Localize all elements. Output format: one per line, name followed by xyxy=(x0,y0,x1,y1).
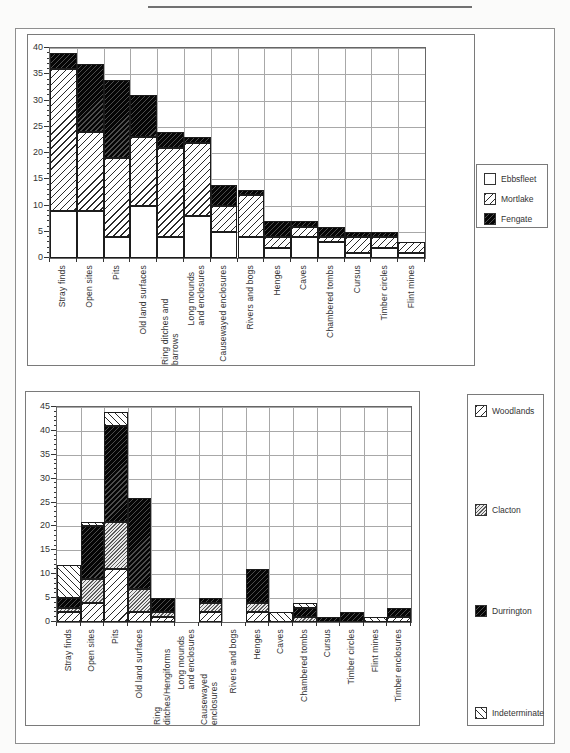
bar-segment-ebbsfleet xyxy=(211,232,238,258)
v-gridline xyxy=(199,407,200,622)
x-tick xyxy=(56,622,57,626)
legend-item-fengate: Fengate xyxy=(484,213,532,225)
x-category-label: Old land surfaces xyxy=(134,629,144,699)
y-minor-tick xyxy=(47,84,50,85)
y-minor-tick xyxy=(54,463,57,464)
bar-segment-clacton xyxy=(128,589,152,613)
y-minor-tick xyxy=(47,52,50,53)
y-minor-tick xyxy=(54,616,57,617)
x-category-label: Timber circles xyxy=(379,265,389,320)
bar-segment-ebbsfleet xyxy=(264,248,291,259)
y-tick-label: 5 xyxy=(25,226,43,236)
v-gridline xyxy=(387,407,388,622)
x-category-label: Timber enclosures xyxy=(393,629,403,702)
bar-segment-fengate xyxy=(157,132,184,148)
bottom-chart-panel: 051015202530354045Stray findsOpen sitesP… xyxy=(25,391,420,726)
bar-segment-ebbsfleet xyxy=(345,253,372,258)
y-tick-label: 35 xyxy=(32,449,50,459)
y-major-tick xyxy=(51,454,56,455)
y-minor-tick xyxy=(54,545,57,546)
y-major-tick xyxy=(44,73,49,74)
bar-segment-mortlake xyxy=(211,206,238,232)
legend-label: Fengate xyxy=(501,214,532,224)
bar-segment-durrington xyxy=(128,498,152,589)
bar-segment-durrington xyxy=(151,598,175,612)
y-major-tick xyxy=(51,478,56,479)
bar-segment-durrington xyxy=(104,426,128,522)
bar-segment-mortlake xyxy=(157,148,184,237)
x-tick xyxy=(221,622,222,626)
y-major-tick xyxy=(44,152,49,153)
clacton-swatch-icon xyxy=(475,504,487,516)
y-minor-tick xyxy=(47,68,50,69)
legend-item-ebbsfleet: Ebbsfleet xyxy=(484,173,536,185)
y-tick-label: 30 xyxy=(32,473,50,483)
y-minor-tick xyxy=(54,592,57,593)
y-minor-tick xyxy=(47,189,50,190)
chart-plot-area xyxy=(49,47,426,259)
y-minor-tick xyxy=(47,215,50,216)
bar-segment-clacton xyxy=(104,522,128,570)
bar-segment-woodlands xyxy=(81,603,105,622)
bar-segment-fengate xyxy=(211,185,238,206)
bar-segment-fengate xyxy=(184,137,211,142)
x-category-label: Rivers and bogs xyxy=(245,265,255,329)
x-category-label: Long mounds and enclosures xyxy=(176,629,196,689)
x-tick xyxy=(263,258,264,262)
x-tick xyxy=(370,258,371,262)
bar-segment-durrington xyxy=(293,608,317,618)
bar-segment-mortlake xyxy=(345,237,372,253)
x-tick xyxy=(76,258,77,262)
bar-segment-ebbsfleet xyxy=(104,237,131,258)
v-gridline xyxy=(151,407,152,622)
x-tick xyxy=(317,258,318,262)
x-tick xyxy=(386,622,387,626)
y-minor-tick xyxy=(47,136,50,137)
y-major-tick xyxy=(44,47,49,48)
y-minor-tick xyxy=(54,411,57,412)
y-minor-tick xyxy=(54,439,57,440)
y-minor-tick xyxy=(54,559,57,560)
legend-label: Mortlake xyxy=(501,194,534,204)
y-major-tick xyxy=(44,100,49,101)
y-minor-tick xyxy=(54,588,57,589)
y-minor-tick xyxy=(47,241,50,242)
y-minor-tick xyxy=(54,607,57,608)
y-minor-tick xyxy=(54,449,57,450)
bar-segment-indeterminate xyxy=(293,603,317,608)
bar-segment-ebbsfleet xyxy=(318,242,345,258)
y-minor-tick xyxy=(47,94,50,95)
y-minor-tick xyxy=(47,89,50,90)
bar-segment-indeterminate xyxy=(81,522,105,527)
y-major-tick xyxy=(51,502,56,503)
y-tick-label: 40 xyxy=(25,42,43,52)
y-tick-label: 0 xyxy=(25,252,43,262)
x-tick xyxy=(129,258,130,262)
y-major-tick xyxy=(51,406,56,407)
bar-segment-ebbsfleet xyxy=(398,253,425,258)
y-minor-tick xyxy=(47,236,50,237)
x-tick xyxy=(174,622,175,626)
bar-segment-fengate xyxy=(291,221,318,226)
bar-segment-mortlake xyxy=(77,132,104,211)
legend-label: Woodlands xyxy=(492,406,534,416)
legend-item-mortlake: Mortlake xyxy=(484,193,534,205)
v-gridline xyxy=(293,407,294,622)
y-minor-tick xyxy=(47,194,50,195)
x-category-label: Stray finds xyxy=(63,629,73,671)
legend-item-clacton: Clacton xyxy=(475,504,521,516)
y-tick-label: 35 xyxy=(25,68,43,78)
bar-segment-indeterminate xyxy=(104,412,128,426)
bar-segment-mortlake xyxy=(50,69,77,211)
y-tick-label: 5 xyxy=(32,592,50,602)
bar-segment-ebbsfleet xyxy=(130,206,157,259)
fengate-swatch-icon xyxy=(484,213,496,225)
v-gridline xyxy=(371,48,372,258)
x-tick xyxy=(290,258,291,262)
y-minor-tick xyxy=(54,564,57,565)
bar-segment-clacton xyxy=(57,608,81,613)
y-minor-tick xyxy=(47,115,50,116)
v-gridline xyxy=(398,48,399,258)
x-tick xyxy=(150,622,151,626)
x-category-label: Ring ditches/Hengiforms xyxy=(152,629,172,725)
